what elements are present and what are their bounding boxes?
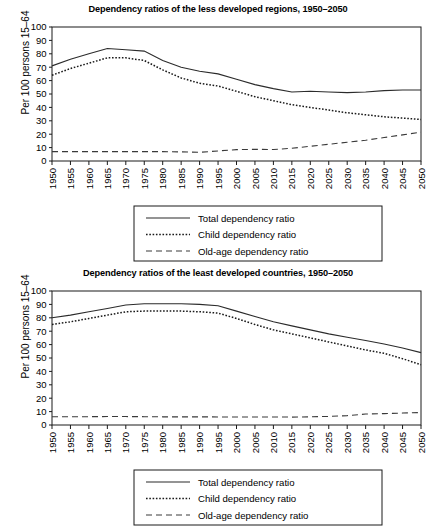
y-tick-label: 30 <box>36 379 47 390</box>
y-tick-label: 80 <box>36 48 47 59</box>
y-tick-label: 80 <box>36 312 47 323</box>
x-tick-label: 1985 <box>176 168 187 189</box>
legend-label: Total dependency ratio <box>198 213 295 224</box>
y-tick-label: 40 <box>36 366 47 377</box>
series-line-old-age <box>52 132 421 152</box>
x-tick-label: 2030 <box>342 168 353 189</box>
chart-figure-least-developed-countries: Dependency ratios of the least developed… <box>0 264 436 528</box>
plot-area-least-developed-countries: 0102030405060708090100195019551960196519… <box>0 264 436 528</box>
x-tick-label: 2010 <box>268 432 279 453</box>
plot-area-less-developed-regions: 0102030405060708090100195019551960196519… <box>0 0 436 264</box>
legend-label: Old-age dependency ratio <box>198 510 308 521</box>
y-tick-label: 50 <box>36 88 47 99</box>
x-tick-label: 2000 <box>231 168 242 189</box>
x-tick-label: 1985 <box>176 432 187 453</box>
x-tick-label: 1990 <box>194 168 205 189</box>
series-line-old-age <box>52 413 421 418</box>
x-tick-label: 2040 <box>379 168 390 189</box>
x-tick-label: 1955 <box>65 168 76 189</box>
y-tick-label: 100 <box>31 285 47 296</box>
chart-figure-less-developed-regions: Dependency ratios of the less developed … <box>0 0 436 264</box>
x-tick-label: 1995 <box>213 432 224 453</box>
x-tick-label: 2005 <box>250 168 261 189</box>
x-tick-label: 1995 <box>213 168 224 189</box>
x-tick-label: 2050 <box>416 168 427 189</box>
y-tick-label: 90 <box>36 35 47 46</box>
x-tick-label: 2050 <box>416 432 427 453</box>
x-tick-label: 2025 <box>323 432 334 453</box>
y-tick-label: 50 <box>36 352 47 363</box>
x-tick-label: 1970 <box>120 168 131 189</box>
legend-label: Child dependency ratio <box>198 493 296 504</box>
x-tick-label: 1990 <box>194 432 205 453</box>
y-tick-label: 10 <box>36 406 47 417</box>
y-tick-label: 90 <box>36 299 47 310</box>
x-tick-label: 1975 <box>139 432 150 453</box>
y-tick-label: 40 <box>36 102 47 113</box>
x-tick-label: 2025 <box>323 168 334 189</box>
x-tick-label: 1950 <box>47 168 58 189</box>
x-tick-label: 2045 <box>397 432 408 453</box>
x-tick-label: 1960 <box>84 432 95 453</box>
x-tick-label: 1950 <box>47 432 58 453</box>
x-tick-label: 2040 <box>379 432 390 453</box>
series-line-child <box>52 311 421 365</box>
x-tick-label: 2010 <box>268 168 279 189</box>
legend-label: Old-age dependency ratio <box>198 246 308 257</box>
legend-label: Child dependency ratio <box>198 229 296 240</box>
y-tick-label: 100 <box>31 21 47 32</box>
y-tick-label: 20 <box>36 393 47 404</box>
x-tick-label: 2030 <box>342 432 353 453</box>
x-tick-label: 2000 <box>231 432 242 453</box>
x-tick-label: 1970 <box>120 432 131 453</box>
y-tick-label: 70 <box>36 326 47 337</box>
y-tick-label: 0 <box>41 419 46 430</box>
legend-label: Total dependency ratio <box>198 477 295 488</box>
y-tick-label: 70 <box>36 62 47 73</box>
y-tick-label: 30 <box>36 115 47 126</box>
x-tick-label: 1965 <box>102 432 113 453</box>
series-line-total <box>52 304 421 353</box>
x-tick-label: 2020 <box>305 432 316 453</box>
y-tick-label: 20 <box>36 129 47 140</box>
y-tick-label: 0 <box>41 155 46 166</box>
series-line-total <box>52 48 421 92</box>
x-tick-label: 2005 <box>250 432 261 453</box>
x-tick-label: 2045 <box>397 168 408 189</box>
x-tick-label: 1975 <box>139 168 150 189</box>
x-tick-label: 2015 <box>286 168 297 189</box>
y-tick-label: 60 <box>36 75 47 86</box>
y-tick-label: 10 <box>36 142 47 153</box>
y-tick-label: 60 <box>36 339 47 350</box>
x-tick-label: 2020 <box>305 168 316 189</box>
series-line-child <box>52 58 421 120</box>
x-tick-label: 1980 <box>157 432 168 453</box>
x-tick-label: 2035 <box>360 432 371 453</box>
x-tick-label: 1965 <box>102 168 113 189</box>
x-tick-label: 1960 <box>84 168 95 189</box>
x-tick-label: 1980 <box>157 168 168 189</box>
x-tick-label: 2015 <box>286 432 297 453</box>
x-tick-label: 2035 <box>360 168 371 189</box>
x-tick-label: 1955 <box>65 432 76 453</box>
